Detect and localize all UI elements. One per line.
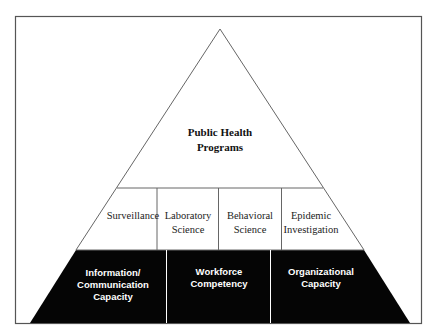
svg-text:Capacity: Capacity bbox=[301, 278, 341, 289]
svg-text:Investigation: Investigation bbox=[284, 224, 340, 235]
pyramid-diagram: Public Health Programs Surveillance Labo… bbox=[0, 0, 436, 335]
svg-text:Communication: Communication bbox=[77, 279, 149, 290]
svg-text:Organizational: Organizational bbox=[288, 266, 354, 277]
svg-text:Public Health: Public Health bbox=[188, 126, 252, 138]
svg-text:Information/: Information/ bbox=[86, 267, 141, 278]
svg-text:Competency: Competency bbox=[190, 278, 248, 289]
svg-text:Workforce: Workforce bbox=[196, 266, 243, 277]
middle-label-surveillance: Surveillance bbox=[107, 210, 160, 221]
svg-text:Behavioral: Behavioral bbox=[227, 210, 273, 221]
svg-text:Laboratory: Laboratory bbox=[165, 210, 212, 221]
svg-text:Capacity: Capacity bbox=[93, 291, 133, 302]
svg-text:Science: Science bbox=[234, 224, 267, 235]
svg-text:Programs: Programs bbox=[197, 141, 244, 153]
svg-text:Epidemic: Epidemic bbox=[291, 210, 332, 221]
svg-text:Science: Science bbox=[172, 224, 205, 235]
base-label-workforce-competency: Workforce Competency bbox=[190, 266, 248, 289]
